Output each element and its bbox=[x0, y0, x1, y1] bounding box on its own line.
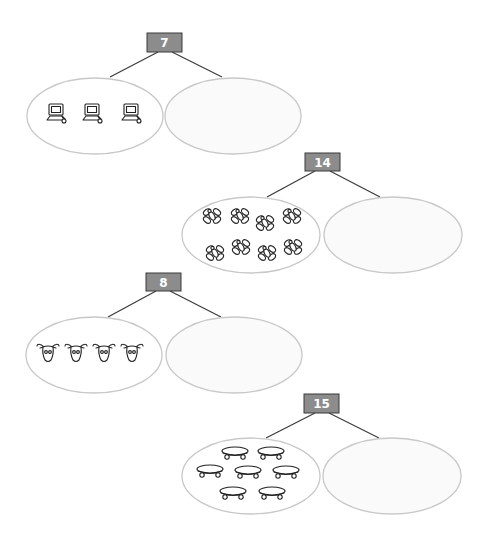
connector-right bbox=[330, 171, 380, 197]
computer-icon bbox=[47, 104, 66, 123]
known-part-ellipse bbox=[182, 197, 320, 273]
computer-icon bbox=[122, 104, 141, 123]
known-part-items bbox=[47, 104, 141, 123]
whole-number: 8 bbox=[159, 276, 167, 290]
number-bond-3: 8 bbox=[26, 273, 302, 393]
answer-part-ellipse[interactable] bbox=[323, 438, 461, 514]
connector-left bbox=[108, 291, 156, 317]
number-bond-2: 14 bbox=[182, 153, 462, 273]
answer-part-ellipse[interactable] bbox=[166, 317, 302, 393]
number-bond-1: 7 bbox=[27, 33, 301, 154]
connector-left bbox=[110, 52, 158, 77]
connector-right bbox=[172, 52, 222, 77]
whole-number: 7 bbox=[160, 36, 168, 50]
worksheet: 7 14 8 bbox=[0, 0, 488, 547]
connector-left bbox=[267, 171, 315, 197]
computer-icon bbox=[83, 104, 102, 123]
whole-number: 15 bbox=[313, 397, 330, 411]
whole-number: 14 bbox=[314, 156, 331, 170]
connector-left bbox=[266, 413, 315, 438]
connector-right bbox=[329, 413, 379, 438]
number-bond-4: 15 bbox=[182, 394, 461, 514]
answer-part-ellipse[interactable] bbox=[165, 78, 301, 154]
answer-part-ellipse[interactable] bbox=[324, 197, 462, 273]
connector-right bbox=[170, 291, 221, 317]
